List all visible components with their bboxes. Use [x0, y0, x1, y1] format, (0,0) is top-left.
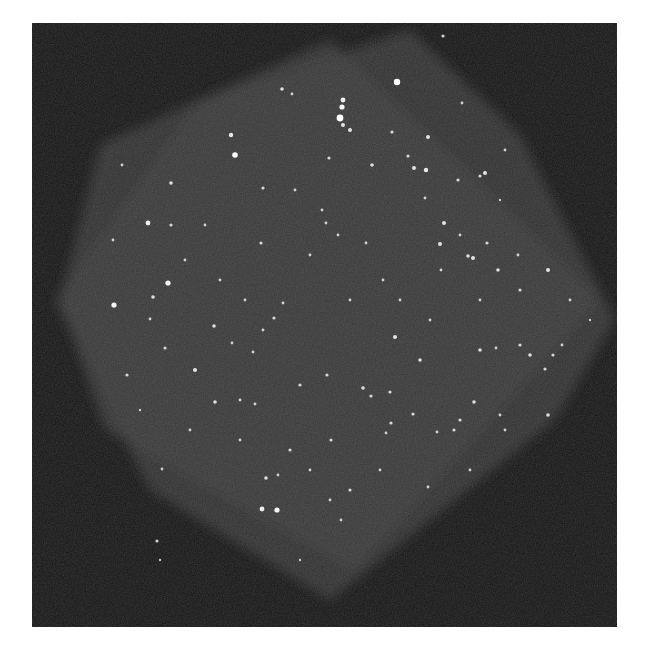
- star-point: [483, 171, 487, 175]
- star-point: [504, 149, 507, 152]
- star-point: [440, 269, 443, 272]
- star-point: [349, 299, 352, 302]
- star-point: [370, 163, 374, 167]
- star-point: [298, 383, 301, 386]
- star-point: [309, 469, 312, 472]
- star-point: [517, 254, 520, 257]
- star-point: [496, 268, 500, 272]
- star-point: [329, 499, 332, 502]
- star-point: [393, 335, 397, 339]
- star-point: [471, 256, 475, 260]
- star-point: [239, 439, 242, 442]
- star-point: [272, 316, 275, 319]
- star-point: [288, 448, 291, 451]
- star-point: [112, 239, 115, 242]
- star-point: [546, 268, 550, 272]
- star-point: [149, 318, 152, 321]
- star-point: [459, 234, 462, 237]
- star-point: [212, 324, 216, 328]
- star-point: [111, 302, 116, 307]
- star-point: [277, 474, 280, 477]
- star-point: [452, 428, 455, 431]
- star-point: [169, 181, 173, 185]
- star-point: [389, 421, 392, 424]
- star-point: [469, 469, 472, 472]
- star-point: [262, 329, 265, 332]
- star-point: [361, 386, 365, 390]
- star-point: [260, 507, 265, 512]
- star-point: [390, 130, 393, 133]
- star-point: [309, 254, 312, 257]
- star-point: [161, 468, 164, 471]
- star-point: [189, 429, 192, 432]
- star-point: [543, 367, 546, 370]
- star-point: [485, 241, 488, 244]
- star-point: [382, 279, 385, 282]
- star-point: [456, 178, 459, 181]
- star-point: [466, 254, 470, 258]
- star-point: [478, 348, 482, 352]
- star-point: [499, 414, 502, 417]
- star-point: [329, 438, 332, 441]
- star-point: [379, 469, 382, 472]
- star-point: [232, 152, 238, 158]
- star-point: [341, 123, 345, 127]
- star-point: [424, 168, 428, 172]
- star-point: [569, 299, 572, 302]
- star-point: [424, 197, 427, 200]
- star-point: [348, 488, 351, 491]
- star-point: [412, 166, 416, 170]
- star-point: [219, 279, 222, 282]
- star-point: [461, 102, 464, 105]
- star-point: [163, 346, 166, 349]
- star-point: [321, 209, 324, 212]
- star-point: [231, 342, 234, 345]
- star-point: [499, 199, 501, 201]
- star-point: [551, 353, 554, 356]
- star-point: [261, 186, 264, 189]
- star-point: [528, 353, 532, 357]
- star-point: [125, 373, 128, 376]
- star-point: [264, 476, 268, 480]
- star-point: [282, 302, 285, 305]
- star-point: [339, 104, 344, 109]
- star-point: [561, 344, 564, 347]
- star-point: [325, 373, 328, 376]
- star-point: [442, 221, 446, 225]
- star-point: [399, 299, 402, 302]
- star-point: [546, 413, 550, 417]
- star-point: [229, 133, 233, 137]
- star-point: [394, 79, 400, 85]
- star-point: [438, 242, 442, 246]
- star-point: [169, 223, 172, 226]
- star-point: [299, 559, 301, 561]
- star-point: [337, 115, 344, 122]
- star-point: [159, 559, 161, 561]
- star-point: [479, 299, 482, 302]
- star-point: [165, 280, 170, 285]
- star-point: [337, 234, 340, 237]
- star-point: [259, 241, 262, 244]
- star-point: [589, 319, 591, 321]
- star-field-image: [0, 0, 648, 657]
- star-point: [418, 358, 422, 362]
- star-point: [504, 429, 507, 432]
- noise-texture: [32, 23, 617, 627]
- star-point: [411, 412, 414, 415]
- star-point: [365, 242, 368, 245]
- star-point: [340, 519, 343, 522]
- star-point: [213, 400, 217, 404]
- star-point: [458, 418, 461, 421]
- star-point: [429, 319, 432, 322]
- star-point: [426, 135, 430, 139]
- star-point: [406, 154, 409, 157]
- star-point: [121, 164, 124, 167]
- star-point: [244, 299, 247, 302]
- star-point: [348, 128, 352, 132]
- star-point: [193, 368, 197, 372]
- star-point: [518, 343, 521, 346]
- star-point: [274, 507, 279, 512]
- star-point: [478, 174, 481, 177]
- star-point: [146, 221, 151, 226]
- star-point: [151, 295, 155, 299]
